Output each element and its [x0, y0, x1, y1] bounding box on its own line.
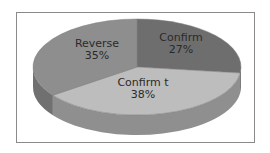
slice-label-confirm: Confirm 27%	[159, 32, 202, 56]
slice-label-confirm-t: Confirm t 38%	[117, 77, 168, 101]
slice-label-reverse: Reverse 35%	[75, 38, 119, 62]
